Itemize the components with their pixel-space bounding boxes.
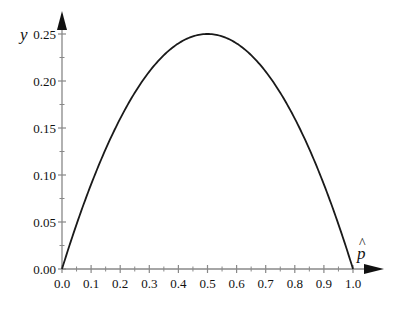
x-tick-label: 0.4 [170, 276, 187, 291]
y-tick-label: 0.00 [33, 262, 56, 277]
hat-icon: ^ [359, 236, 366, 251]
x-tick-label: 0.5 [199, 276, 215, 291]
y-tick-label: 0.05 [33, 215, 56, 230]
y-axis-arrow-icon [57, 11, 67, 30]
x-tick-label: 0.9 [316, 276, 332, 291]
curve-line [62, 34, 353, 269]
y-axis-label: y [18, 25, 28, 44]
x-tick-label: 1.0 [345, 276, 361, 291]
x-axis-label: p ^ [356, 236, 366, 263]
chart: 0.000.050.100.150.200.25 0.00.10.20.30.4… [0, 0, 396, 309]
x-axis-arrow-icon [364, 264, 384, 274]
x-tick-label: 0.1 [83, 276, 99, 291]
y-axis-ticks: 0.000.050.100.150.200.25 [33, 27, 66, 277]
y-tick-label: 0.25 [33, 27, 56, 42]
x-tick-label: 0.0 [54, 276, 70, 291]
x-tick-label: 0.8 [287, 276, 303, 291]
y-tick-label: 0.10 [33, 168, 56, 183]
y-tick-label: 0.20 [33, 74, 56, 89]
x-tick-label: 0.7 [258, 276, 275, 291]
y-tick-label: 0.15 [33, 121, 56, 136]
x-tick-label: 0.3 [141, 276, 157, 291]
x-tick-label: 0.2 [112, 276, 128, 291]
x-tick-label: 0.6 [228, 276, 245, 291]
